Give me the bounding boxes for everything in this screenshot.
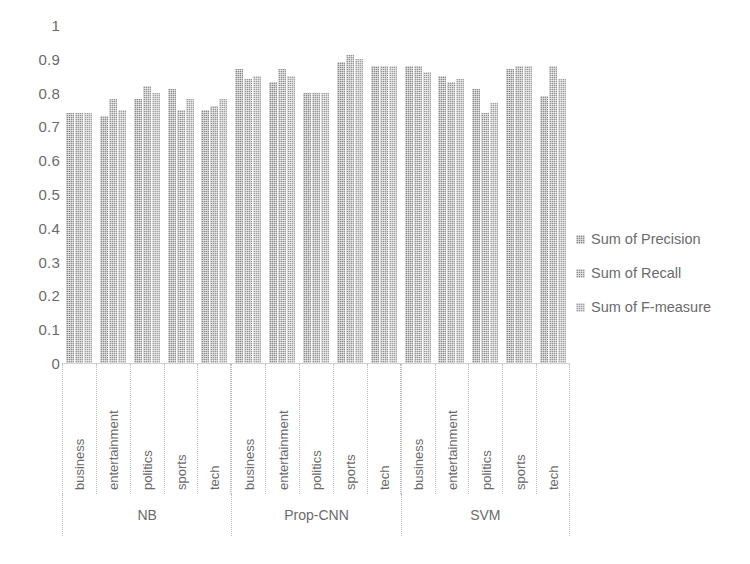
bar	[152, 93, 160, 363]
bar	[438, 76, 446, 363]
bar	[456, 79, 464, 363]
category-cell: tech	[367, 364, 401, 494]
category-cell: politics	[299, 364, 333, 494]
category-cell: sports	[333, 364, 367, 494]
bar-cluster	[468, 18, 502, 363]
bar	[558, 79, 566, 363]
bar	[355, 59, 363, 363]
y-axis-tick-label: 0	[8, 356, 60, 371]
bar	[219, 99, 227, 363]
bar	[472, 89, 480, 363]
bar	[143, 86, 151, 363]
bar	[287, 76, 295, 363]
legend-label: Sum of Recall	[591, 265, 681, 281]
bar	[134, 99, 142, 363]
bar	[389, 66, 397, 363]
bar	[100, 116, 108, 363]
category-label: sports	[344, 455, 357, 490]
category-label: business	[242, 439, 255, 490]
bar	[540, 96, 548, 363]
bar	[278, 69, 286, 363]
category-cell: business	[231, 364, 265, 494]
group-cell: SVM	[401, 494, 570, 536]
y-axis-tick-label: 0.3	[8, 255, 60, 270]
group-label: SVM	[402, 508, 569, 522]
category-cell: entertainment	[96, 364, 130, 494]
bar	[506, 69, 514, 363]
category-label: business	[412, 439, 425, 490]
bar	[210, 106, 218, 363]
category-label: entertainment	[445, 411, 458, 491]
bar	[235, 69, 243, 363]
category-label: sports	[513, 455, 526, 490]
category-label: politics	[141, 450, 154, 490]
bar	[118, 110, 126, 364]
category-cell: politics	[130, 364, 164, 494]
category-label: politics	[479, 450, 492, 490]
bar	[405, 66, 413, 363]
legend-item[interactable]: Sum of Precision	[576, 222, 748, 256]
y-axis: 00.10.20.30.40.50.60.70.80.91	[8, 10, 60, 370]
group-cell: Prop-CNN	[231, 494, 400, 536]
bar	[177, 110, 185, 364]
bar	[66, 113, 74, 363]
bar	[312, 93, 320, 363]
category-label: business	[73, 439, 86, 490]
bar	[346, 55, 354, 363]
bar	[371, 66, 379, 363]
legend-label: Sum of F-measure	[591, 299, 711, 315]
category-cell: sports	[164, 364, 198, 494]
bar-cluster	[401, 18, 435, 363]
bar	[269, 82, 277, 363]
category-label: tech	[208, 465, 221, 490]
bar-cluster	[62, 18, 96, 363]
y-axis-tick-label: 0.4	[8, 221, 60, 236]
category-label: tech	[377, 465, 390, 490]
bar-group	[231, 18, 400, 363]
bar-cluster	[435, 18, 469, 363]
bar-cluster	[164, 18, 198, 363]
legend-item[interactable]: Sum of F-measure	[576, 290, 748, 324]
y-axis-tick-label: 0.5	[8, 187, 60, 202]
y-axis-tick-label: 0.2	[8, 288, 60, 303]
bar-cluster	[536, 18, 570, 363]
y-axis-tick-label: 0.6	[8, 153, 60, 168]
bar-cluster	[299, 18, 333, 363]
bar	[380, 66, 388, 363]
category-cell: business	[401, 364, 435, 494]
category-label: politics	[310, 450, 323, 490]
category-cell: entertainment	[435, 364, 469, 494]
bar-cluster	[96, 18, 130, 363]
category-label: entertainment	[107, 411, 120, 491]
bar	[186, 99, 194, 363]
bar-cluster	[130, 18, 164, 363]
bar-cluster	[197, 18, 231, 363]
bar-cluster	[265, 18, 299, 363]
bar	[337, 62, 345, 363]
bar	[75, 113, 83, 363]
category-cell: tech	[536, 364, 570, 494]
bar	[481, 113, 489, 363]
group-label-band: NBProp-CNNSVM	[62, 494, 570, 536]
bar-group	[62, 18, 231, 363]
bar	[447, 82, 455, 363]
legend-swatch-icon	[576, 235, 585, 244]
legend-swatch-icon	[576, 303, 585, 312]
legend-label: Sum of Precision	[591, 231, 701, 247]
y-axis-tick-label: 0.1	[8, 322, 60, 337]
bar	[244, 79, 252, 363]
bar	[109, 99, 117, 363]
bar-group	[401, 18, 570, 363]
legend-item[interactable]: Sum of Recall	[576, 256, 748, 290]
y-axis-tick-label: 0.9	[8, 52, 60, 67]
y-axis-tick-label: 1	[8, 18, 60, 33]
bar	[321, 93, 329, 363]
bar	[201, 110, 209, 364]
category-cell: politics	[468, 364, 502, 494]
category-cell: business	[62, 364, 96, 494]
category-cell: tech	[197, 364, 231, 494]
bar	[253, 76, 261, 363]
group-label: Prop-CNN	[232, 508, 400, 522]
y-axis-tick-label: 0.7	[8, 119, 60, 134]
bar	[524, 66, 532, 363]
